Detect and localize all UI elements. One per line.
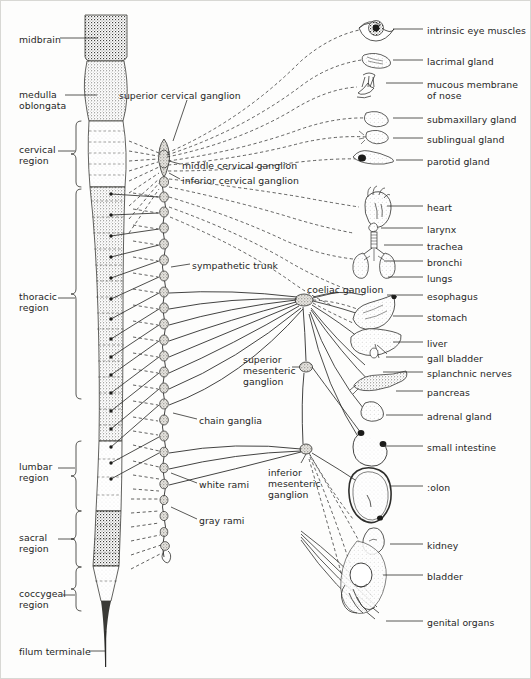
label-splanchnic-nerves: splanchnic nerves bbox=[427, 368, 512, 379]
coeliac-ganglion-node bbox=[295, 294, 313, 306]
label-adrenal-gland: adrenal gland bbox=[427, 411, 492, 422]
pancreas-illustration bbox=[350, 371, 407, 394]
brace-lumbar bbox=[71, 441, 81, 511]
label-esophagus: esophagus bbox=[427, 291, 478, 302]
label-chain-ganglia: chain ganglia bbox=[199, 415, 262, 426]
brace-coccygeal bbox=[71, 567, 81, 611]
leader-superior-cervical-ganglion bbox=[173, 100, 187, 141]
label-trachea: trachea bbox=[427, 241, 463, 252]
label-superior-cervical-ganglion: superior cervical ganglion bbox=[119, 90, 241, 101]
label-colon: :olon bbox=[427, 482, 450, 493]
sublingual-gland-illustration bbox=[359, 130, 388, 144]
label-thoracic-region: thoracic region bbox=[19, 291, 57, 314]
label-gall-bladder: gall bladder bbox=[427, 353, 483, 364]
lacrimal-gland-illustration bbox=[362, 53, 390, 68]
label-submaxillary-gland: submaxillary gland bbox=[427, 114, 517, 125]
sympathetic-trunk-chain bbox=[159, 139, 171, 563]
leader-chain-ganglia bbox=[173, 413, 197, 419]
label-sacral-region: sacral region bbox=[19, 532, 49, 555]
label-liver: liver bbox=[427, 338, 447, 349]
label-genital-organs: genital organs bbox=[427, 617, 494, 628]
label-sympathetic-trunk: sympathetic trunk bbox=[192, 260, 278, 271]
label-sublingual-gland: sublingual gland bbox=[427, 134, 505, 145]
label-gray-rami: gray rami bbox=[199, 515, 245, 526]
label-stomach: stomach bbox=[427, 312, 467, 323]
label-midbrain: midbrain bbox=[19, 34, 61, 45]
label-parotid-gland: parotid gland bbox=[427, 156, 490, 167]
parotid-gland-illustration bbox=[353, 151, 394, 165]
label-white-rami: white rami bbox=[199, 479, 249, 490]
label-lacrimal-gland: lacrimal gland bbox=[427, 56, 494, 67]
nose-illustration bbox=[357, 73, 375, 98]
bronchi-lungs-illustration bbox=[353, 248, 395, 278]
autonomic-nervous-system-figure: midbrainmedulla oblongatacervical region… bbox=[0, 0, 531, 679]
label-superior-mesenteric-ganglion: superior mesenteric ganglion bbox=[243, 354, 296, 388]
larynx-trachea-illustration bbox=[369, 223, 378, 248]
leader-inferior-mesenteric-ganglion bbox=[301, 454, 306, 463]
submaxillary-gland-illustration bbox=[364, 112, 388, 127]
colon-illustration bbox=[349, 468, 391, 523]
adrenal-gland-illustration bbox=[361, 402, 384, 422]
leader-sympathetic-trunk bbox=[171, 264, 190, 267]
label-filum-terminale: filum terminale bbox=[19, 646, 91, 657]
label-heart: heart bbox=[427, 202, 452, 213]
label-intrinsic-eye-muscles: intrinsic eye muscles bbox=[427, 25, 526, 36]
label-lungs: lungs bbox=[427, 273, 452, 284]
inferior-mesenteric-ganglion-node bbox=[300, 444, 312, 454]
label-mucous-membrane-of-nose: mucous membrane of nose bbox=[427, 79, 518, 101]
label-lumbar-region: lumbar region bbox=[19, 461, 52, 484]
bladder-illustration bbox=[350, 563, 372, 587]
leader-gray-rami bbox=[171, 507, 197, 519]
label-coeliac-ganglion: coeliac ganglion bbox=[307, 284, 383, 295]
leader-middle-cervical-ganglion bbox=[169, 161, 180, 164]
brace-cervical bbox=[71, 121, 81, 187]
label-inferior-mesenteric-ganglion: inferior mesenteric ganglion bbox=[268, 467, 321, 501]
spinal-cord-column bbox=[84, 15, 127, 667]
splanchnic-nerves-fibres bbox=[169, 292, 306, 485]
label-medulla-oblongata: medulla oblongata bbox=[19, 89, 66, 112]
label-kidney: kidney bbox=[427, 540, 458, 551]
stomach-illustration bbox=[353, 295, 397, 329]
label-cervical-region: cervical region bbox=[19, 144, 56, 167]
region-braces bbox=[71, 121, 81, 611]
label-inferior-cervical-ganglion: inferior cervical ganglion bbox=[182, 175, 299, 186]
superior-mesenteric-ganglion-node bbox=[300, 362, 313, 372]
heart-illustration bbox=[365, 186, 391, 227]
organ-illustrations bbox=[341, 21, 407, 614]
label-small-intestine: small intestine bbox=[427, 442, 496, 453]
small-intestine-illustration bbox=[353, 430, 387, 466]
gall-bladder-illustration bbox=[370, 348, 378, 358]
label-bronchi: bronchi bbox=[427, 257, 462, 268]
eye-illustration bbox=[359, 21, 394, 42]
leader-inferior-cervical-ganglion bbox=[169, 173, 180, 179]
label-larynx: larynx bbox=[427, 224, 456, 235]
label-pancreas: pancreas bbox=[427, 387, 470, 398]
label-bladder: bladder bbox=[427, 571, 463, 582]
label-middle-cervical-ganglion: middle cervical ganglion bbox=[182, 160, 297, 171]
label-coccygeal-region: coccygeal region bbox=[19, 588, 66, 611]
